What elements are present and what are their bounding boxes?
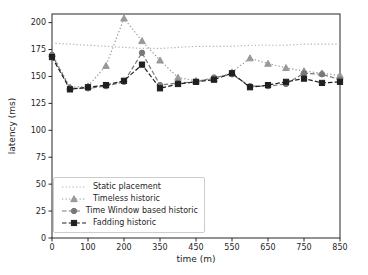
legend-label: Time Window based historic [86,205,198,217]
square-marker [71,220,76,225]
square-marker [121,78,126,83]
y-tick-label: 200 [31,18,46,27]
y-tick-label: 175 [31,45,46,54]
x-tick-label: 650 [260,243,275,252]
x-tick-label: 350 [152,243,167,252]
square-marker [265,82,270,87]
legend-entry: Time Window based historic [61,205,198,217]
legend-label: Timeless historic [93,193,160,205]
triangle-marker [283,65,290,71]
circle-marker [301,71,306,76]
circle-marker [139,50,144,55]
x-tick-label: 200 [116,243,131,252]
square-marker [175,81,180,86]
x-tick-label: 450 [188,243,203,252]
square-marker [319,80,324,85]
x-tick-label: 550 [224,243,239,252]
legend-label: Fadding historic [93,217,156,229]
legend-line-sample [61,194,87,204]
y-tick-label: 50 [36,180,46,189]
square-marker [301,76,306,81]
x-tick-label: 0 [49,243,54,252]
legend-line-sample [61,206,80,216]
square-marker [67,87,72,92]
square-marker [157,86,162,91]
legend-line-sample [61,182,87,192]
legend-label: Static placement [93,181,161,193]
legend-entry: Timeless historic [61,193,198,205]
latency-line-chart-figure: 0255075100125150175200010020035045055065… [0,0,368,275]
y-tick-label: 100 [31,126,46,135]
x-tick-label: 750 [296,243,311,252]
legend-entry: Static placement [61,181,198,193]
triangle-marker [139,38,146,44]
y-tick-label: 0 [41,234,46,243]
triangle-marker [121,15,128,21]
circle-marker [319,72,324,77]
legend-line-sample [61,218,87,228]
y-tick-label: 75 [36,153,46,162]
triangle-marker [103,62,110,68]
x-tick-label: 850 [332,243,347,252]
y-tick-label: 125 [31,99,46,108]
legend-entry: Fadding historic [61,217,198,229]
square-marker [229,71,234,76]
square-marker [337,79,342,84]
square-marker [49,54,54,59]
line-chart-canvas: 0255075100125150175200010020035045055065… [0,0,368,275]
triangle-marker [247,55,254,61]
legend: Static placementTimeless historicTime Wi… [53,177,205,233]
y-tick-label: 150 [31,72,46,81]
square-marker [211,77,216,82]
y-axis-label: latency (ms) [7,98,17,154]
y-tick-label: 25 [36,207,46,216]
circle-marker [71,208,76,213]
square-marker [283,79,288,84]
square-marker [85,85,90,90]
square-marker [139,62,144,67]
square-marker [103,82,108,87]
x-tick-label: 100 [80,243,95,252]
x-axis-label: time (m) [177,254,216,264]
series-line-static-placement [52,43,340,48]
square-marker [247,85,252,90]
square-marker [193,79,198,84]
